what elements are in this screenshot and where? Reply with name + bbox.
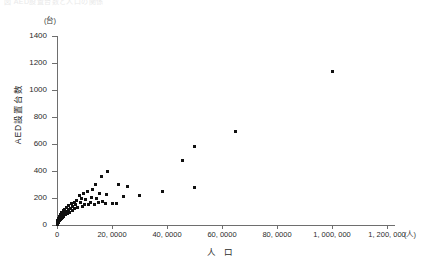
y-tick-label: 1000 [13, 86, 47, 94]
scatter-point [78, 194, 81, 197]
scatter-point [73, 207, 76, 210]
scatter-point [234, 130, 237, 133]
x-tick-mark [112, 225, 113, 229]
scatter-point [331, 70, 334, 73]
scatter-point [138, 194, 141, 197]
scatter-chart-figure: 図 AED設置台数と人口の関係 (台) AED設置台数 人 口 (人) 0200… [0, 0, 443, 270]
y-tick-mark [52, 63, 57, 64]
scatter-point [90, 196, 93, 199]
scatter-point [94, 183, 97, 186]
scatter-point [93, 203, 96, 206]
scatter-point [101, 200, 104, 203]
scatter-point [73, 201, 76, 204]
y-tick-mark [52, 36, 57, 37]
scatter-point [126, 185, 129, 188]
x-tick-mark [167, 225, 168, 229]
x-axis-title: 人 口 [0, 245, 443, 257]
scatter-point [56, 223, 59, 226]
x-tick-mark [387, 225, 388, 229]
y-tick-mark [52, 171, 57, 172]
x-tick-mark [332, 225, 333, 229]
x-tick-label: 1, 200, 000 [368, 230, 406, 239]
scatter-point [87, 203, 90, 206]
y-tick-label: 800 [13, 113, 47, 121]
y-tick-label: 1400 [13, 32, 47, 40]
scatter-point [122, 195, 125, 198]
scatter-point [81, 205, 84, 208]
scatter-point [181, 159, 184, 162]
y-axis-unit-label: (台) [44, 14, 56, 25]
x-tick-label: 20, 0000 [97, 230, 126, 239]
scatter-point [76, 206, 79, 209]
scatter-point [100, 175, 103, 178]
scatter-point [79, 201, 82, 204]
scatter-point [86, 190, 89, 193]
scatter-point [161, 190, 164, 193]
x-tick-label: 1, 000, 000 [313, 230, 351, 239]
y-tick-mark [52, 117, 57, 118]
x-tick-label: 40, 0000 [152, 230, 181, 239]
y-tick-mark [52, 144, 57, 145]
x-tick-label: 0 [55, 230, 59, 239]
x-tick-mark [222, 225, 223, 229]
y-tick-mark [52, 198, 57, 199]
scatter-point [75, 199, 78, 202]
clipped-top-caption: 図 AED設置台数と人口の関係 [4, 0, 103, 6]
y-tick-mark [52, 90, 57, 91]
scatter-point [91, 188, 94, 191]
scatter-point [95, 197, 98, 200]
scatter-point [74, 203, 77, 206]
scatter-point [84, 198, 87, 201]
x-tick-label: 80, 0000 [262, 230, 291, 239]
scatter-point [115, 202, 118, 205]
x-axis-line [57, 225, 395, 226]
y-tick-label: 0 [13, 221, 47, 229]
scatter-point [193, 145, 196, 148]
scatter-point [82, 192, 85, 195]
scatter-point [105, 193, 108, 196]
y-tick-label: 600 [13, 140, 47, 148]
scatter-point [97, 201, 100, 204]
scatter-point [98, 192, 101, 195]
scatter-point [111, 202, 114, 205]
scatter-point [193, 186, 196, 189]
y-axis-line [57, 36, 58, 226]
x-tick-label: 60, 0000 [207, 230, 236, 239]
y-tick-label: 200 [13, 194, 47, 202]
y-tick-label: 1200 [13, 59, 47, 67]
scatter-point [106, 170, 109, 173]
x-tick-mark [277, 225, 278, 229]
y-tick-label: 400 [13, 167, 47, 175]
scatter-point [104, 202, 107, 205]
x-axis-unit-label: (人) [404, 228, 416, 239]
scatter-point [117, 183, 120, 186]
